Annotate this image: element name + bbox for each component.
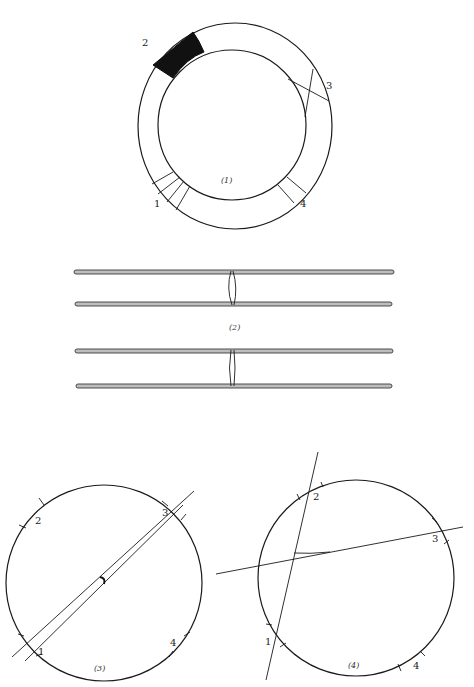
figure-3: 2 3 1 4 (3) xyxy=(6,485,202,681)
sector-3-line-a xyxy=(305,69,313,117)
label-4: 4 xyxy=(300,198,306,209)
sector-4-line-a xyxy=(278,185,294,203)
label-3: 3 xyxy=(162,507,168,518)
tick xyxy=(181,514,186,520)
diagram-canvas: 2 3 1 4 (1) (2) 2 3 1 4 (3) xyxy=(0,0,474,687)
line-steep xyxy=(266,452,318,680)
rod-2 xyxy=(75,302,392,306)
line-shallow xyxy=(216,527,463,574)
figure-1: 2 3 1 4 (1) xyxy=(138,23,332,229)
label-2: 2 xyxy=(142,37,148,48)
tick xyxy=(420,651,425,656)
sector-2-filled xyxy=(153,32,204,78)
circle-4 xyxy=(258,480,454,676)
label-1: 1 xyxy=(265,636,271,647)
label-4: 4 xyxy=(413,660,419,671)
label-2: 2 xyxy=(35,515,41,526)
sector-1-line-a xyxy=(152,172,173,184)
sector-1-line-d xyxy=(176,186,190,210)
sector-1-line-b xyxy=(158,177,180,194)
caption-4: (4) xyxy=(348,661,359,670)
sector-4-line-b xyxy=(287,177,306,193)
figure-2: (2) xyxy=(74,270,394,388)
pivot-mark xyxy=(100,577,105,584)
tick xyxy=(39,498,44,505)
label-1: 1 xyxy=(38,646,44,657)
loop-1 xyxy=(229,271,236,305)
loop-2 xyxy=(230,350,236,386)
caption-3: (3) xyxy=(94,664,105,673)
label-1: 1 xyxy=(154,198,160,209)
caption-1: (1) xyxy=(221,176,232,185)
tick xyxy=(266,624,272,625)
label-3: 3 xyxy=(326,80,332,91)
sector-1-line-c xyxy=(167,181,184,202)
label-3: 3 xyxy=(432,533,438,544)
figure-4: 2 3 1 4 (4) xyxy=(216,452,463,680)
caption-2: (2) xyxy=(229,323,240,332)
label-4: 4 xyxy=(170,637,176,648)
label-2: 2 xyxy=(313,491,319,502)
